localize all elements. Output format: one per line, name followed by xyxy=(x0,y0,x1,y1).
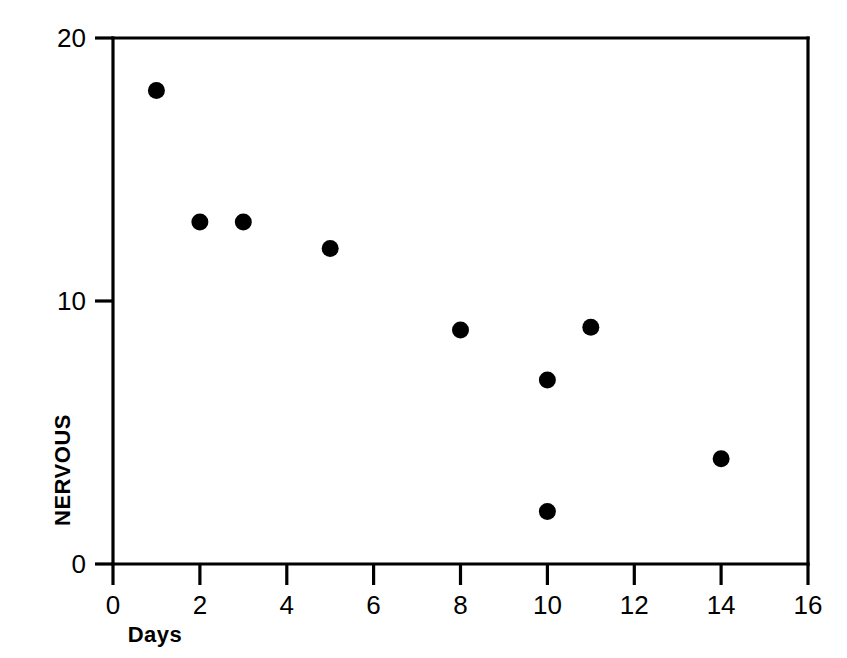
y-tick-label-20: 20 xyxy=(57,23,86,53)
y-tick-label-0: 0 xyxy=(72,549,86,579)
x-tick-label-0: 0 xyxy=(106,590,120,620)
y-axis-title: NERVOUS xyxy=(50,414,75,526)
x-tick-label-16: 16 xyxy=(794,590,823,620)
data-point xyxy=(539,371,556,388)
x-tick-label-4: 4 xyxy=(280,590,294,620)
x-tick-label-2: 2 xyxy=(193,590,207,620)
x-tick-label-6: 6 xyxy=(366,590,380,620)
data-point xyxy=(235,214,252,231)
x-tick-label-14: 14 xyxy=(707,590,736,620)
y-tick-label-10: 10 xyxy=(57,286,86,316)
data-point xyxy=(148,82,165,99)
x-tick-label-10: 10 xyxy=(533,590,562,620)
data-point xyxy=(582,319,599,336)
x-tick-label-8: 8 xyxy=(453,590,467,620)
data-point xyxy=(191,214,208,231)
x-axis-title: Days xyxy=(128,622,183,647)
data-point xyxy=(452,321,469,338)
data-point xyxy=(322,240,339,257)
figure-background xyxy=(0,0,847,658)
scatter-plot: 0 10 20 0 2 4 6 8 10 12 14 16 xyxy=(0,0,847,658)
x-tick-label-12: 12 xyxy=(620,590,649,620)
chart-figure: 0 10 20 0 2 4 6 8 10 12 14 16 xyxy=(0,0,847,658)
data-point xyxy=(713,450,730,467)
data-point xyxy=(539,503,556,520)
